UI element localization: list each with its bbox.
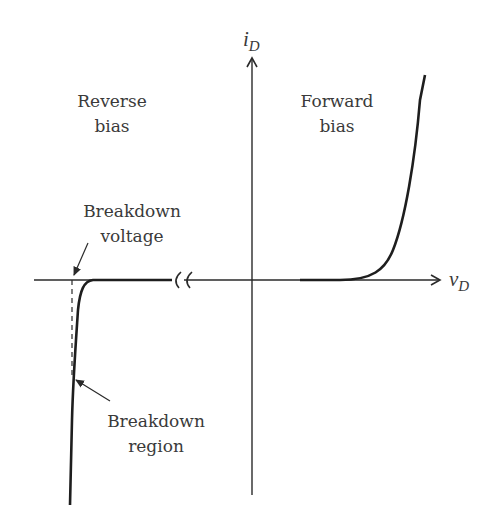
y-axis-label: iD xyxy=(243,27,260,54)
breakdown-voltage-label-line2: voltage xyxy=(99,226,163,246)
breakdown-voltage-pointer xyxy=(74,243,88,275)
reverse-bias-curve xyxy=(70,280,172,505)
forward-bias-label-line1: Forward xyxy=(301,91,374,111)
breakdown-region-pointer xyxy=(76,380,110,401)
forward-bias-label-line2: bias xyxy=(319,116,354,136)
x-axis-label: vD xyxy=(449,267,469,294)
reverse-bias-label-line1: Reverse xyxy=(77,91,146,111)
axis-break-icon xyxy=(176,272,181,288)
reverse-bias-label-line2: bias xyxy=(94,116,129,136)
breakdown-region-label-line2: region xyxy=(128,436,184,456)
breakdown-region-label-line1: Breakdown xyxy=(107,411,205,431)
breakdown-voltage-label-line1: Breakdown xyxy=(83,201,181,221)
diode-iv-diagram: iD vD Reverse bias Forward bias Breakdow… xyxy=(0,0,485,521)
